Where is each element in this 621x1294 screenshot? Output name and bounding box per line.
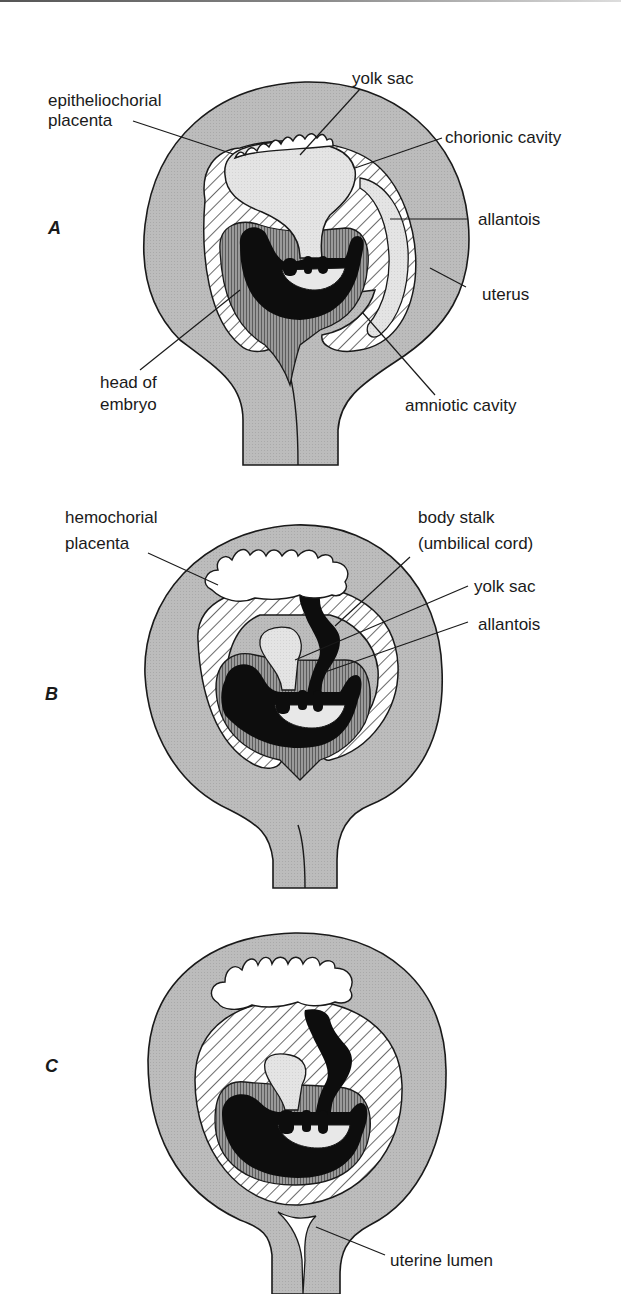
label-uterine-lumen: uterine lumen (390, 1251, 493, 1270)
label-allantois-a: allantois (478, 210, 540, 229)
panel-c: uterine lumen C (45, 933, 493, 1294)
label-placenta-b: placenta (65, 534, 130, 553)
panel-label-b: B (45, 684, 58, 704)
label-uterus: uterus (482, 285, 529, 304)
label-umbilical-cord: (umbilical cord) (418, 534, 533, 553)
label-epitheliochorial: epitheliochorial (48, 91, 161, 110)
label-hemochorial: hemochorial (65, 508, 158, 527)
panel-label-a: A (47, 218, 61, 238)
panel-b: hemochorial placenta body stalk (umbilic… (45, 508, 540, 888)
panel-label-c: C (45, 1056, 59, 1076)
label-placenta-a: placenta (48, 111, 113, 130)
label-allantois-b: allantois (478, 615, 540, 634)
label-head-of: head of (100, 373, 157, 392)
label-chorionic-cavity: chorionic cavity (445, 128, 562, 147)
label-yolk-sac-b: yolk sac (474, 577, 536, 596)
label-amniotic-cavity: amniotic cavity (405, 396, 517, 415)
label-embryo: embryo (100, 395, 157, 414)
label-body-stalk: body stalk (418, 508, 495, 527)
placenta-diagram: epitheliochorial placenta yolk sac chori… (0, 0, 621, 1294)
panel-a: epitheliochorial placenta yolk sac chori… (47, 69, 562, 465)
label-yolk-sac-a: yolk sac (352, 69, 414, 88)
placenta-b (205, 550, 348, 602)
